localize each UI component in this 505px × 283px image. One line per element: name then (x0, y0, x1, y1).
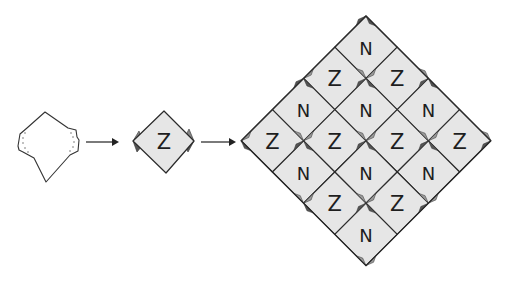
arrow-icon (201, 138, 236, 146)
grid-tile-label: N (422, 163, 435, 184)
crease-pattern-shape (18, 112, 79, 182)
folding-diagram: Z NZNZZNZNNZNZZNZN (0, 0, 505, 283)
grid-tile-label: N (359, 100, 372, 121)
grid-tile-label: N (297, 100, 310, 121)
grid-tile-label: N (422, 100, 435, 121)
grid-tile-label: N (359, 225, 372, 246)
tessellation-grid: NZNZZNZNNZNZZNZN (241, 16, 491, 266)
grid-tile-label: Z (390, 130, 404, 154)
grid-tile-label: N (359, 163, 372, 184)
grid-tile-label: Z (328, 130, 342, 154)
arrow-icon (86, 138, 119, 146)
grid-tile-label: Z (328, 67, 342, 91)
grid-tile-label: Z (452, 130, 466, 154)
grid-tile-label: Z (328, 192, 342, 216)
grid-tile-label: N (359, 38, 372, 59)
grid-tile-label: Z (390, 192, 404, 216)
tile-label: Z (157, 130, 171, 154)
grid-tile-label: Z (390, 67, 404, 91)
grid-tile-label: Z (265, 130, 279, 154)
grid-tile-label: N (297, 163, 310, 184)
single-tile: Z (133, 111, 194, 173)
